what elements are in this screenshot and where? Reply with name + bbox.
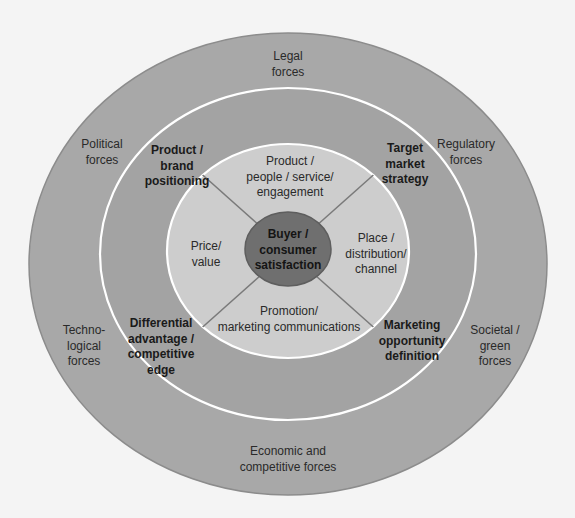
mix-product-label: Product / people / service/ engagement (246, 154, 333, 201)
env-regulatory-label: Regulatory forces (437, 137, 495, 168)
center-label: Buyer / consumer satisfaction (255, 227, 322, 274)
strategy-opportunity-label: Marketing opportunity definition (379, 318, 446, 365)
env-societal-label: Societal / green forces (470, 323, 519, 370)
env-technological-label: Techno- logical forces (63, 323, 106, 370)
mix-price-label: Price/ value (191, 239, 222, 270)
strategy-positioning-label: Product / brand positioning (145, 143, 210, 190)
mix-promotion-label: Promotion/ marketing communications (218, 304, 361, 335)
strategy-target-label: Target market strategy (382, 141, 429, 188)
env-legal-label: Legal forces (272, 49, 305, 80)
mix-place-label: Place / distribution/ channel (345, 231, 406, 278)
env-political-label: Political forces (81, 137, 122, 168)
strategy-differential-label: Differential advantage / competitive edg… (128, 316, 195, 378)
env-economic-label: Economic and competitive forces (240, 444, 337, 475)
